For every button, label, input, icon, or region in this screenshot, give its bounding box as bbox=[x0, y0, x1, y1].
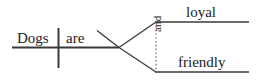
conjunction-label: and bbox=[152, 16, 163, 32]
verb-label: are bbox=[66, 31, 84, 46]
subject-label: Dogs bbox=[17, 31, 49, 46]
upper-complement-label: loyal bbox=[186, 5, 216, 20]
predicate-complement-slant-line bbox=[97, 31, 119, 48]
sentence-diagram: Dogs are loyal friendly and bbox=[0, 0, 256, 80]
fork-lower-branch-line bbox=[119, 48, 156, 73]
lower-complement-label: friendly bbox=[178, 55, 225, 70]
